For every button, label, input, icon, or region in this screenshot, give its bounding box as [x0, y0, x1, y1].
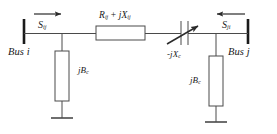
bus-left-index: i	[27, 46, 30, 57]
series-capacitor-label: -jXc	[167, 50, 181, 60]
series-reactance-symbol: jX	[119, 10, 128, 20]
series-impedance-operator: +	[108, 10, 118, 20]
shunt-branch-left	[51, 33, 73, 118]
circuit-diagram: Sij Sji Bus i Bus j Rij + jXij -jXc jBc …	[0, 0, 277, 134]
shunt-right-symbol: jB	[190, 75, 198, 85]
bus-label-right: Bus j	[228, 47, 250, 58]
series-reactance-subscript: ij	[127, 14, 130, 20]
bus-label-left: Bus i	[8, 47, 30, 58]
series-impedance-label: Rij + jXij	[99, 11, 131, 21]
shunt-right-subscript: c	[198, 79, 201, 85]
shunt-susceptance-label-left: jBc	[78, 66, 89, 76]
bus-right-index: j	[247, 46, 250, 57]
shunt-branch-right	[205, 33, 227, 122]
bus-left-prefix: Bus	[8, 46, 24, 57]
shunt-susceptance-label-right: jBc	[190, 76, 201, 86]
power-flow-label-ji: Sji	[222, 20, 231, 31]
series-impedance-element	[96, 26, 145, 40]
power-flow-subscript-ji: ji	[227, 23, 231, 30]
series-capacitor-subscript: c	[178, 53, 181, 59]
bus-right-prefix: Bus	[228, 46, 244, 57]
power-flow-subscript-ij: ij	[43, 23, 47, 30]
shunt-left-symbol: jB	[78, 65, 86, 75]
shunt-left-subscript: c	[86, 69, 89, 75]
power-flow-label-ij: Sij	[38, 20, 47, 31]
